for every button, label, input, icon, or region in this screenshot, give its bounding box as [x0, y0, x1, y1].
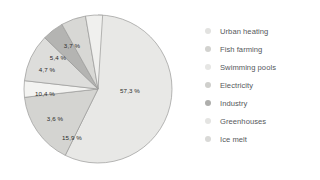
legend-item-label: Urban heating — [220, 27, 268, 36]
legend-item[interactable]: Electricity — [196, 76, 320, 94]
pie-svg — [0, 0, 196, 180]
legend-item[interactable]: Greenhouses — [196, 112, 320, 130]
legend-item-label: Swimming pools — [220, 63, 276, 72]
legend-item-label: Electricity — [220, 81, 253, 90]
legend-color-swatch-icon — [205, 136, 211, 142]
legend-color-swatch-icon — [205, 64, 211, 70]
pie-slice-label: 10,4 % — [35, 90, 55, 97]
pie-slice-label: 3,6 % — [47, 115, 63, 122]
legend-item[interactable]: Urban heating — [196, 22, 320, 40]
pie-plot-area: 57,3 %15,9 %3,6 %10,4 %4,7 %5,4 %3,7 % — [0, 0, 196, 180]
legend-color-swatch-icon — [205, 118, 211, 124]
legend-item[interactable]: Fish farming — [196, 40, 320, 58]
pie-chart-figure: 57,3 %15,9 %3,6 %10,4 %4,7 %5,4 %3,7 % U… — [0, 0, 320, 180]
chart-legend: Urban heatingFish farmingSwimming poolsE… — [196, 0, 320, 180]
legend-item[interactable]: Swimming pools — [196, 58, 320, 76]
pie-slice-label: 5,4 % — [50, 54, 66, 61]
pie-slice-label: 15,9 % — [62, 134, 82, 141]
legend-color-swatch-icon — [205, 82, 211, 88]
legend-item-label: Fish farming — [220, 45, 262, 54]
legend-color-swatch-icon — [205, 28, 211, 34]
pie-slice-label: 4,7 % — [39, 66, 55, 73]
legend-color-swatch-icon — [205, 46, 211, 52]
pie-slice-label: 3,7 % — [64, 42, 80, 49]
legend-item-label: Ice melt — [220, 135, 247, 144]
legend-item[interactable]: Ice melt — [196, 130, 320, 148]
legend-item-label: Industry — [220, 99, 247, 108]
legend-color-swatch-icon — [205, 100, 211, 106]
legend-item[interactable]: Industry — [196, 94, 320, 112]
legend-item-label: Greenhouses — [220, 117, 266, 126]
pie-slice-label: 57,3 % — [120, 87, 140, 94]
